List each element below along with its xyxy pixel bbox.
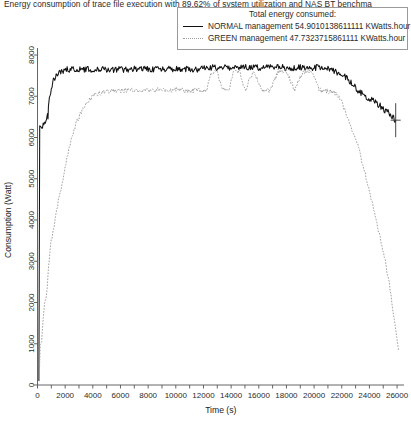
x-tick-label: 18000	[275, 391, 298, 400]
chart-legend: Total energy consumed: NORMAL management…	[177, 7, 408, 50]
x-tick-label: 24000	[358, 391, 381, 400]
x-tick-label: 10000	[165, 391, 188, 400]
series-line-normal	[39, 64, 396, 380]
x-tick-label: 14000	[220, 391, 243, 400]
chart-plot-area: 0100020003000400050006000700080000200040…	[0, 0, 411, 426]
y-tick-label: 1000	[27, 334, 36, 352]
x-tick-label: 16000	[248, 391, 271, 400]
x-tick-label: 4000	[84, 391, 102, 400]
legend-label-normal: NORMAL management 54.9010138611111 KWatt…	[208, 22, 410, 31]
chart-figure: Energy consumption of trace file executi…	[0, 0, 411, 426]
x-tick-label: 2000	[56, 391, 74, 400]
x-axis-title: Time (s)	[205, 405, 236, 415]
y-tick-label: 3000	[27, 252, 36, 270]
y-tick-label: 0	[27, 382, 36, 387]
y-axis-title: Consumption (Watt)	[3, 182, 13, 258]
legend-line-swatch-normal	[178, 21, 208, 32]
legend-title: Total energy consumed:	[178, 10, 407, 20]
series-line-green	[39, 69, 398, 381]
legend-entry-green: GREEN management 47.7323715861111 KWatts…	[178, 33, 407, 44]
y-tick-label: 6000	[27, 128, 36, 146]
y-tick-label: 8000	[27, 46, 36, 64]
y-tick-label: 2000	[27, 293, 36, 311]
x-tick-label: 0	[35, 391, 40, 400]
y-tick-label: 5000	[27, 169, 36, 187]
x-tick-label: 6000	[112, 391, 130, 400]
x-tick-label: 12000	[192, 391, 215, 400]
legend-line-swatch-green	[178, 33, 208, 44]
x-tick-label: 22000	[331, 391, 354, 400]
legend-entry-normal: NORMAL management 54.9010138611111 KWatt…	[178, 21, 407, 32]
legend-label-green: GREEN management 47.7323715861111 KWatts…	[208, 34, 405, 43]
y-tick-label: 7000	[27, 87, 36, 105]
y-tick-label: 4000	[27, 211, 36, 229]
x-tick-label: 8000	[139, 391, 157, 400]
x-tick-label: 26000	[386, 391, 409, 400]
x-tick-label: 20000	[303, 391, 326, 400]
